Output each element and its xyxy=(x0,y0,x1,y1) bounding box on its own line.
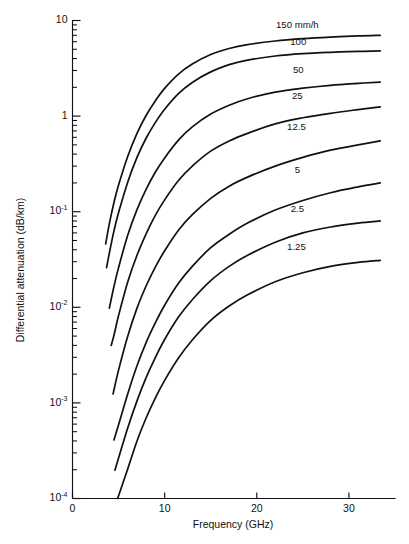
curve-label: 2.5 xyxy=(291,203,304,214)
x-tick-label: 30 xyxy=(343,502,355,514)
x-axis-title: Frequency (GHz) xyxy=(193,518,274,530)
figure-container: 10110-110-210-310-4 0102030 150 mm/h1005… xyxy=(0,0,409,544)
y-tick-label: 10-1 xyxy=(50,204,68,217)
curve-label: 1.25 xyxy=(287,241,306,252)
rain-rate-curve xyxy=(118,260,381,498)
y-tick-label: 1 xyxy=(62,109,68,121)
x-tick-label: 10 xyxy=(159,502,171,514)
x-tick-label: 0 xyxy=(70,502,76,514)
y-tick-label: 10 xyxy=(56,13,68,25)
curve-label: 50 xyxy=(293,64,304,75)
y-axis-title: Differential attenuation (dB/km) xyxy=(14,198,26,343)
rain-rate-curve xyxy=(109,82,380,308)
curve-label: 25 xyxy=(292,90,303,101)
y-axis-ticks xyxy=(73,21,81,499)
rain-rate-curve xyxy=(107,51,381,268)
curve-label: 100 xyxy=(290,36,306,47)
x-axis-tick-labels: 0102030 xyxy=(70,502,355,514)
y-tick-label: 10-4 xyxy=(50,490,68,503)
curve-label: 5 xyxy=(295,164,300,175)
differential-attenuation-chart: 10110-110-210-310-4 0102030 150 mm/h1005… xyxy=(0,0,409,544)
y-tick-label: 10-2 xyxy=(50,299,68,312)
y-axis-tick-labels: 10110-110-210-310-4 xyxy=(50,13,68,503)
curve-group xyxy=(106,35,381,498)
curve-label: 150 mm/h xyxy=(276,19,319,30)
rain-rate-curve xyxy=(113,141,380,394)
x-axis-ticks xyxy=(73,493,349,499)
y-tick-label: 10-3 xyxy=(50,395,68,408)
rain-rate-curve xyxy=(106,35,381,244)
x-tick-label: 20 xyxy=(251,502,263,514)
rain-rate-curve xyxy=(115,221,380,470)
curve-label: 12.5 xyxy=(287,121,306,132)
